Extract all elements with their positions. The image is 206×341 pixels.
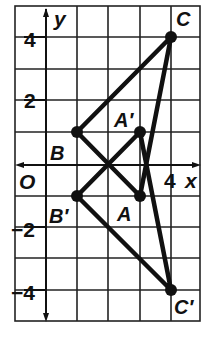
vertex-points — [71, 31, 177, 296]
origin-label: O — [19, 170, 35, 193]
y-tick-label-neg-4: −4 — [11, 281, 35, 304]
label-a-prime: A′ — [113, 109, 134, 131]
coordinate-plane: C B A A′ B′ C′ y x O 4 4 2 −2 −4 — [0, 0, 206, 341]
point-b — [71, 126, 83, 138]
point-c-prime — [165, 284, 177, 296]
point-b-prime — [71, 190, 83, 202]
y-tick-label-neg-2: −2 — [11, 218, 35, 241]
label-b-prime: B′ — [49, 205, 69, 227]
label-c-prime: C′ — [174, 296, 194, 318]
point-a — [134, 190, 146, 202]
y-tick-label-2: 2 — [24, 89, 36, 112]
point-c — [165, 31, 177, 43]
label-a: A — [116, 203, 131, 225]
x-tick-label-4: 4 — [164, 169, 176, 192]
label-c: C — [176, 8, 191, 30]
point-a-prime — [134, 126, 146, 138]
x-axis-arrow-left-icon — [15, 162, 24, 168]
label-b: B — [50, 142, 64, 164]
y-axis-arrow-up-icon — [43, 8, 49, 17]
x-axis-label: x — [184, 169, 198, 192]
y-tick-label-4: 4 — [24, 28, 36, 51]
y-axis-label: y — [53, 7, 67, 30]
